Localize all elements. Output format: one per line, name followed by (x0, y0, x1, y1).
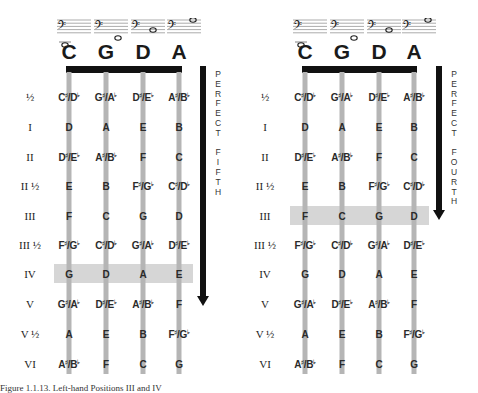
note-cell: D♯/E♭ (294, 151, 315, 163)
note-cell: E (302, 181, 308, 192)
position-label: III ½ (254, 239, 276, 251)
note-cell: A♯/B♭ (368, 298, 390, 310)
nut-bar (302, 66, 417, 73)
note-cell: G♯/A♭ (368, 239, 390, 251)
position-label: VI (259, 358, 271, 370)
note-cell: D (302, 122, 309, 133)
position-label: III (260, 210, 271, 222)
interval-label: PERFECT FOURTH (449, 70, 459, 207)
note-cell: F♯/G♭ (294, 239, 315, 251)
note-cell: G (301, 269, 308, 280)
svg-text:𝄢: 𝄢 (367, 18, 376, 34)
note-cell: A♯/B♭ (294, 358, 316, 370)
position-label: IV (259, 268, 271, 280)
note-cell: A (302, 329, 309, 340)
note-cell: F (376, 152, 382, 163)
note-cell: F (339, 359, 345, 370)
note-cell: B (376, 329, 383, 340)
staff-c-icon: 𝄢 (293, 18, 325, 38)
position-label: ½ (261, 91, 269, 103)
open-string-c: C (297, 40, 312, 64)
highlighted-position-band (290, 206, 429, 225)
note-cell: D (411, 211, 418, 222)
open-string-g: G (334, 40, 350, 64)
note-cell: B (411, 122, 418, 133)
note-cell: C (411, 152, 418, 163)
staff-a-icon: 𝄢 (402, 18, 434, 38)
staff-d-icon: 𝄢 (367, 18, 399, 38)
note-cell: F (411, 299, 417, 310)
position-label: V (261, 298, 269, 310)
note-cell: C (376, 359, 383, 370)
position-label: II ½ (256, 180, 274, 192)
note-cell: F♯/G♭ (403, 328, 424, 340)
note-cell: C♯/D♭ (331, 239, 353, 251)
note-cell: F♯/G♭ (368, 180, 389, 192)
figure-caption: Figure 1.1.13. Left-hand Positions III a… (0, 383, 162, 393)
svg-text:𝄢: 𝄢 (293, 18, 302, 34)
note-cell: D♯/E♭ (331, 298, 352, 310)
open-string-d: D (371, 40, 386, 64)
note-cell: E (376, 122, 382, 133)
note-cell: B (339, 181, 346, 192)
interval-arrow-icon (436, 66, 442, 210)
note-cell: G♯/A♭ (331, 91, 353, 103)
note-cell: C♯/D♭ (403, 180, 425, 192)
note-cell: D♯/E♭ (368, 91, 389, 103)
note-cell: D♯/E♭ (403, 239, 424, 251)
svg-text:𝄢: 𝄢 (402, 18, 411, 34)
note-cell: G♯/A♭ (294, 298, 316, 310)
note-cell: F (302, 211, 308, 222)
note-cell: D (339, 269, 346, 280)
note-cell: E (411, 269, 417, 280)
position-label: I (263, 121, 267, 133)
note-cell: C♯/D♭ (294, 91, 316, 103)
open-string-a: A (406, 40, 421, 64)
note-cell: A♯/B♭ (403, 91, 425, 103)
staff-g-icon: 𝄢 (330, 18, 362, 38)
note-cell: G (410, 359, 417, 370)
svg-text:𝄢: 𝄢 (330, 18, 339, 34)
note-cell: A♯/B♭ (331, 151, 353, 163)
position-label: II (261, 151, 268, 163)
note-cell: G (375, 211, 382, 222)
note-cell: A (339, 122, 346, 133)
note-cell: C (339, 211, 346, 222)
position-label: V ½ (256, 328, 275, 340)
note-cell: A (376, 269, 383, 280)
note-cell: E (339, 329, 345, 340)
arrow-head-icon (433, 210, 445, 220)
